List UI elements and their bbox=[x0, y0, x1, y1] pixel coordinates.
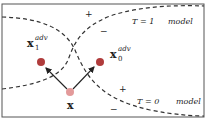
x0-adv-point bbox=[96, 58, 104, 66]
x-point bbox=[66, 88, 74, 96]
plus-sign-bottom: + bbox=[119, 84, 127, 94]
x-label: x bbox=[67, 99, 74, 112]
t1-label: T = 1 bbox=[132, 17, 154, 26]
plus-sign-top: + bbox=[85, 9, 93, 19]
diagram-canvas: x 1 adv x 0 adv x + − + − T = 1 model T … bbox=[0, 0, 207, 128]
t0-label: T = 0 bbox=[137, 97, 159, 106]
minus-sign-bottom: − bbox=[110, 104, 118, 114]
x1-adv-superscript: adv bbox=[35, 34, 48, 42]
t0-model-label: model bbox=[176, 97, 201, 106]
x0-adv-label: x bbox=[110, 48, 117, 61]
x1-adv-point bbox=[37, 58, 45, 66]
x1-adv-label: x bbox=[27, 37, 34, 50]
x0-adv-superscript: adv bbox=[118, 45, 131, 53]
x1-adv-subscript: 1 bbox=[35, 44, 39, 52]
x0-adv-subscript: 0 bbox=[118, 55, 122, 63]
t1-model-label: model bbox=[168, 17, 193, 26]
minus-sign-top: − bbox=[100, 26, 108, 36]
